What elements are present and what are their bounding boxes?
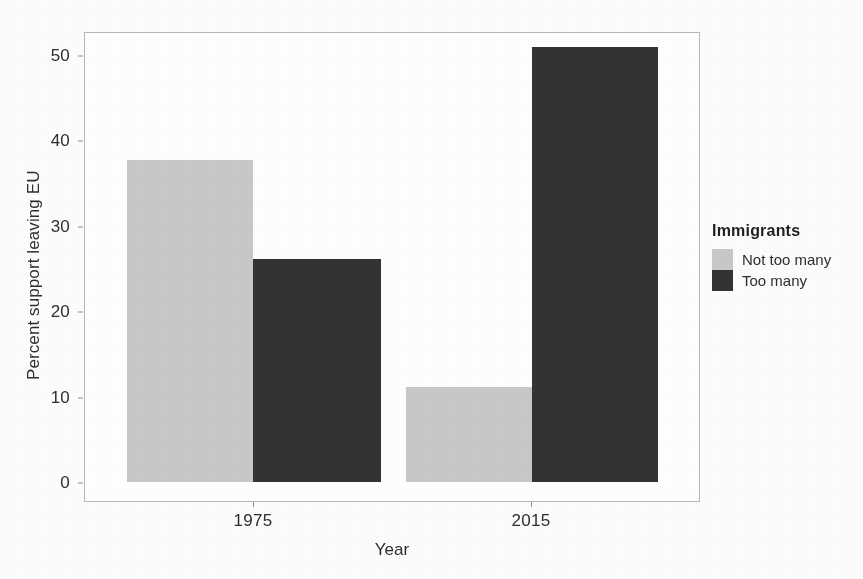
plot-area [85, 33, 699, 501]
y-tick-label: 20 [0, 302, 70, 322]
bar-1975-too-many [253, 259, 381, 482]
y-tick-mark [78, 312, 83, 313]
bar-2015-not-too-many [406, 387, 532, 482]
x-tick-mark [253, 502, 254, 507]
legend-item-label: Too many [742, 272, 807, 289]
y-tick-label: 0 [0, 473, 70, 493]
y-axis-title: Percent support leaving EU [24, 170, 44, 380]
y-tick-label: 40 [0, 131, 70, 151]
bar-2015-too-many [532, 47, 658, 482]
y-tick-label: 50 [0, 46, 70, 66]
x-tick-label: 1975 [233, 511, 272, 531]
legend: Immigrants Not too manyToo many [712, 222, 857, 291]
x-tick-mark [531, 502, 532, 507]
legend-entries: Not too manyToo many [712, 249, 857, 291]
y-tick-mark [78, 397, 83, 398]
legend-swatch-icon [712, 270, 733, 291]
legend-item-label: Not too many [742, 251, 831, 268]
y-tick-mark [78, 56, 83, 57]
y-tick-mark [78, 141, 83, 142]
y-tick-mark [78, 483, 83, 484]
y-tick-mark [78, 226, 83, 227]
bar-chart-figure: Percent support leaving EU 01020304050 1… [0, 0, 863, 579]
bar-1975-not-too-many [127, 160, 253, 482]
x-tick-label: 2015 [511, 511, 550, 531]
legend-item: Not too many [712, 249, 857, 270]
legend-swatch-icon [712, 249, 733, 270]
y-tick-label: 30 [0, 217, 70, 237]
legend-item: Too many [712, 270, 857, 291]
legend-title: Immigrants [712, 222, 857, 240]
x-axis-title: Year [0, 540, 784, 560]
y-tick-label: 10 [0, 388, 70, 408]
plot-panel [84, 32, 700, 502]
